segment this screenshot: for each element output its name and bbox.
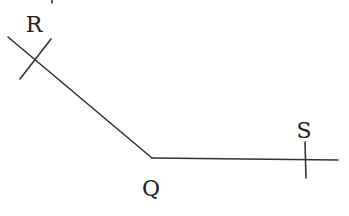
angle-diagram: R Q S <box>0 0 349 216</box>
ray-qr <box>8 37 152 158</box>
point-label-s: S <box>296 118 311 143</box>
arc-mark-on-qr <box>20 39 51 79</box>
arc-mark-on-qs <box>305 142 306 178</box>
point-label-q: Q <box>142 176 160 201</box>
ray-qs <box>152 158 338 160</box>
point-label-r: R <box>26 12 44 37</box>
